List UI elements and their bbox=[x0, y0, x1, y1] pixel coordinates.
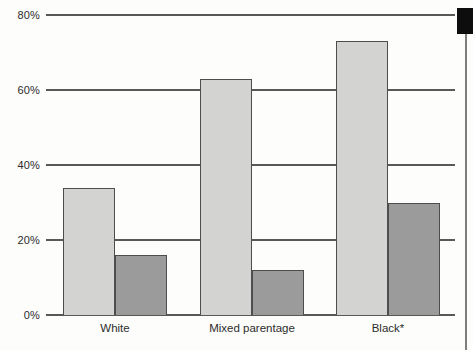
y-tick-label: 0% bbox=[0, 308, 40, 322]
bar-white-light bbox=[63, 188, 115, 316]
bar-white-dark bbox=[115, 255, 167, 315]
gridline bbox=[46, 14, 455, 16]
y-tick-label: 40% bbox=[0, 158, 40, 172]
page-tab bbox=[457, 8, 473, 34]
plot-area bbox=[46, 15, 455, 315]
bar-chart-figure: 0%20%40%60%80%WhiteMixed parentageBlack* bbox=[0, 0, 473, 350]
bar-black-dark bbox=[388, 203, 440, 316]
y-tick-label: 20% bbox=[0, 233, 40, 247]
bar-mixed-parentage-light bbox=[200, 79, 252, 315]
y-tick-label: 60% bbox=[0, 83, 40, 97]
bar-mixed-parentage-dark bbox=[252, 270, 304, 315]
page-edge-line bbox=[465, 34, 467, 350]
bar-black-light bbox=[336, 41, 388, 315]
y-tick-label: 80% bbox=[0, 8, 40, 22]
x-category-label: Black* bbox=[323, 321, 453, 335]
x-category-label: Mixed parentage bbox=[187, 321, 317, 335]
x-category-label: White bbox=[50, 321, 180, 335]
